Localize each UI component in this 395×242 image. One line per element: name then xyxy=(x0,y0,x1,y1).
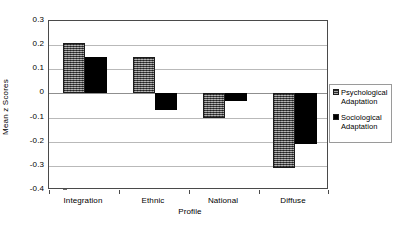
legend-swatch-icon xyxy=(333,89,339,95)
bar-diffuse-sociological xyxy=(295,93,317,144)
y-tick-label: 0 xyxy=(20,88,44,96)
y-axis-title: Mean z Scores xyxy=(1,62,10,152)
bar-chart: Mean z Scores 0.30.20.10-0.1-0.2-0.3-0.4… xyxy=(0,0,395,242)
x-tick-mark xyxy=(259,190,260,194)
bar-ethnic-sociological xyxy=(155,93,177,110)
legend-swatch-icon xyxy=(333,114,339,120)
bar-national-psychological xyxy=(203,93,225,117)
y-tick-label: -0.2 xyxy=(20,137,44,145)
y-tick-label: -0.1 xyxy=(20,113,44,121)
legend-item-psychological: Psychological Adaptation xyxy=(333,88,389,106)
y-axis-ticks: 0.30.20.10-0.1-0.2-0.3-0.4 xyxy=(19,0,44,242)
bar-national-sociological xyxy=(225,93,247,100)
legend-label: Psychological Adaptation xyxy=(341,88,389,106)
y-tick-label: -0.4 xyxy=(20,185,44,193)
y-tick-mark xyxy=(63,189,67,190)
legend-item-sociological: Sociological Adaptation xyxy=(333,113,389,131)
bar-ethnic-psychological xyxy=(133,57,155,93)
x-tick-mark xyxy=(119,190,120,194)
x-tick-label-diffuse: Diffuse xyxy=(250,196,336,205)
gridline xyxy=(49,45,327,46)
x-tick-mark xyxy=(49,190,50,194)
x-axis-title: Profile xyxy=(150,207,230,216)
plot-area xyxy=(48,20,328,189)
chart-legend: Psychological AdaptationSociological Ada… xyxy=(329,84,392,143)
bar-diffuse-psychological xyxy=(273,93,295,168)
y-tick-label: 0.1 xyxy=(20,64,44,72)
y-tick-label: -0.3 xyxy=(20,161,44,169)
x-tick-mark xyxy=(328,190,329,194)
legend-label: Sociological Adaptation xyxy=(341,113,389,131)
bar-integration-psychological xyxy=(63,43,85,94)
bar-integration-sociological xyxy=(85,57,107,93)
x-tick-mark xyxy=(189,190,190,194)
y-tick-label: 0.3 xyxy=(20,16,44,24)
y-tick-label: 0.2 xyxy=(20,40,44,48)
